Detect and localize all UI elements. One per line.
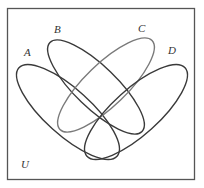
set-a-label: A xyxy=(23,46,31,58)
universe-frame xyxy=(8,9,195,180)
set-c-label: C xyxy=(138,22,146,34)
venn-diagram: A B C D U xyxy=(0,0,204,188)
set-b-label: B xyxy=(54,23,61,35)
set-d-label: D xyxy=(167,44,176,56)
universe-label: U xyxy=(21,158,30,170)
